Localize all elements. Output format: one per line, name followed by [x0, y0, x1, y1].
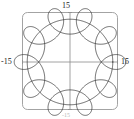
axis-label-left: -15 [1, 58, 12, 66]
axis-label-right: 15 [121, 58, 129, 66]
chart-background [0, 0, 134, 119]
plot-canvas [0, 0, 134, 119]
chart-figure: 15 -15 15 -15 [0, 0, 134, 119]
axis-label-top: 15 [62, 2, 70, 10]
axis-label-bottom: -15 [62, 112, 70, 118]
